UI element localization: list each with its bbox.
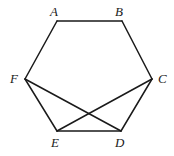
vertex-label-d: D [115, 136, 124, 149]
vertex-label-c: C [158, 72, 167, 85]
diagonal-fd [25, 79, 121, 131]
vertex-label-f: F [10, 72, 18, 85]
hexagon-figure: A B C D E F [0, 0, 174, 156]
vertex-label-e: E [51, 136, 59, 149]
hexagon-diagonals [25, 79, 152, 131]
edge-fa [25, 21, 57, 79]
edge-ef [25, 79, 57, 131]
vertex-label-a: A [50, 5, 58, 18]
diagonal-ce [57, 79, 152, 131]
vertex-label-b: B [115, 5, 123, 18]
edge-bc [122, 21, 152, 79]
hexagon-diagram-svg [0, 0, 174, 156]
